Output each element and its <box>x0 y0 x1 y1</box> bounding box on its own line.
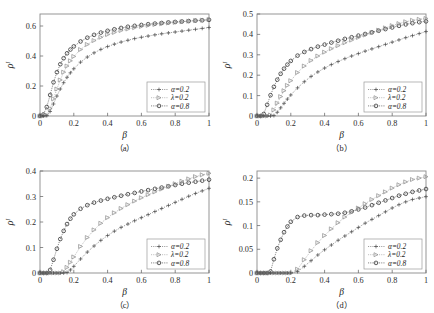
x-tick-label: 0 <box>38 119 42 128</box>
y-tick-label: 0 <box>32 269 36 278</box>
chart-panel-c: 00.20.40.60.8100.10.20.30.4βρI（c）α=0.2λ=… <box>0 157 217 313</box>
y-tick-label: 0 <box>249 112 253 121</box>
y-tick-label: 0.6 <box>26 22 36 31</box>
x-tick-label: 0.8 <box>170 119 180 128</box>
y-tick-label: 0 <box>249 269 253 278</box>
x-tick-label: 0.2 <box>286 276 296 285</box>
figure-grid: 00.20.40.60.8100.20.40.6βρI（a）α=0.2λ=0.2… <box>0 0 434 313</box>
x-tick-label: 1 <box>207 119 211 128</box>
y-axis-title: ρI <box>221 218 232 227</box>
x-tick-label: 0.4 <box>319 119 329 128</box>
y-tick-label: 0.15 <box>239 198 253 207</box>
legend-label: α=0.8 <box>388 259 406 268</box>
legend: α=0.2λ=0.2α=0.8 <box>147 239 205 269</box>
svg-text:ρI: ρI <box>4 218 15 227</box>
x-tick-label: 1 <box>207 276 211 285</box>
x-axis-title: β <box>121 130 127 140</box>
x-tick-label: 0.2 <box>69 276 79 285</box>
x-tick-label: 0.4 <box>319 276 329 285</box>
panel-caption: （b） <box>331 144 351 153</box>
x-tick-label: 0.6 <box>353 276 363 285</box>
x-tick-label: 0.8 <box>387 276 397 285</box>
x-tick-label: 0.2 <box>69 119 79 128</box>
svg-text:ρI: ρI <box>221 61 232 70</box>
y-axis-title: ρI <box>221 61 232 70</box>
y-tick-label: 0.1 <box>243 92 253 101</box>
legend-label: α=0.8 <box>171 259 189 268</box>
chart-panel-a: 00.20.40.60.8100.20.40.6βρI（a）α=0.2λ=0.2… <box>0 0 217 156</box>
x-tick-label: 0.8 <box>387 119 397 128</box>
x-tick-label: 1 <box>424 119 428 128</box>
x-tick-label: 0.2 <box>286 119 296 128</box>
panel-caption: （d） <box>331 301 351 310</box>
y-tick-label: 0.05 <box>239 245 253 254</box>
y-tick-label: 0.3 <box>26 193 36 202</box>
y-tick-label: 0.2 <box>26 82 36 91</box>
legend-label: α=0.8 <box>388 102 406 111</box>
y-tick-label: 0.3 <box>243 51 253 60</box>
x-axis-title: β <box>121 287 127 297</box>
y-tick-label: 0.1 <box>243 222 253 231</box>
chart-panel-d: 00.20.40.60.8100.050.10.150.2βρI（d）α=0.2… <box>217 157 434 313</box>
x-tick-label: 0.4 <box>102 119 112 128</box>
y-axis-title: ρI <box>4 218 15 227</box>
y-tick-label: 0 <box>32 112 36 121</box>
y-tick-label: 0.4 <box>26 52 36 61</box>
x-tick-label: 1 <box>424 276 428 285</box>
x-tick-label: 0.4 <box>102 276 112 285</box>
x-tick-label: 0.8 <box>170 276 180 285</box>
y-axis-title: ρI <box>4 61 15 70</box>
x-axis-title: β <box>338 130 344 140</box>
panel-caption: （c） <box>115 301 135 310</box>
legend: α=0.2λ=0.2α=0.8 <box>147 82 205 112</box>
x-tick-label: 0.6 <box>136 276 146 285</box>
x-tick-label: 0.6 <box>136 119 146 128</box>
x-tick-label: 0.6 <box>353 119 363 128</box>
svg-text:ρI: ρI <box>221 218 232 227</box>
y-tick-label: 0.2 <box>26 218 36 227</box>
legend-label: α=0.8 <box>171 102 189 111</box>
x-axis-title: β <box>338 287 344 297</box>
svg-text:ρI: ρI <box>4 61 15 70</box>
x-tick-label: 0 <box>255 119 259 128</box>
y-tick-label: 0.2 <box>243 174 253 183</box>
chart-panel-b: 00.20.40.60.8100.10.20.30.40.5βρI（b）α=0.… <box>217 0 434 156</box>
x-tick-label: 0 <box>38 276 42 285</box>
legend: α=0.2λ=0.2α=0.8 <box>364 82 422 112</box>
y-tick-label: 0.2 <box>243 71 253 80</box>
x-tick-label: 0 <box>255 276 259 285</box>
panel-caption: （a） <box>115 144 135 153</box>
y-tick-label: 0.4 <box>26 167 36 176</box>
y-tick-label: 0.5 <box>243 10 253 19</box>
y-tick-label: 0.1 <box>26 244 36 253</box>
legend: α=0.2λ=0.2α=0.8 <box>364 239 422 269</box>
y-tick-label: 0.4 <box>243 30 253 39</box>
